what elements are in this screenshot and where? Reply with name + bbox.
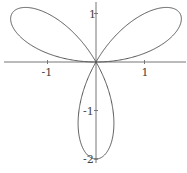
y-tick-label: -1 [83, 105, 94, 118]
y-tick-label: -2 [83, 153, 94, 166]
chart-canvas: -111-1-2 [0, 0, 187, 173]
tick-labels: -111-1-2 [42, 8, 149, 167]
x-tick-label: -1 [42, 66, 53, 79]
x-tick-label: 1 [142, 66, 149, 79]
y-tick-label: 1 [89, 8, 96, 21]
